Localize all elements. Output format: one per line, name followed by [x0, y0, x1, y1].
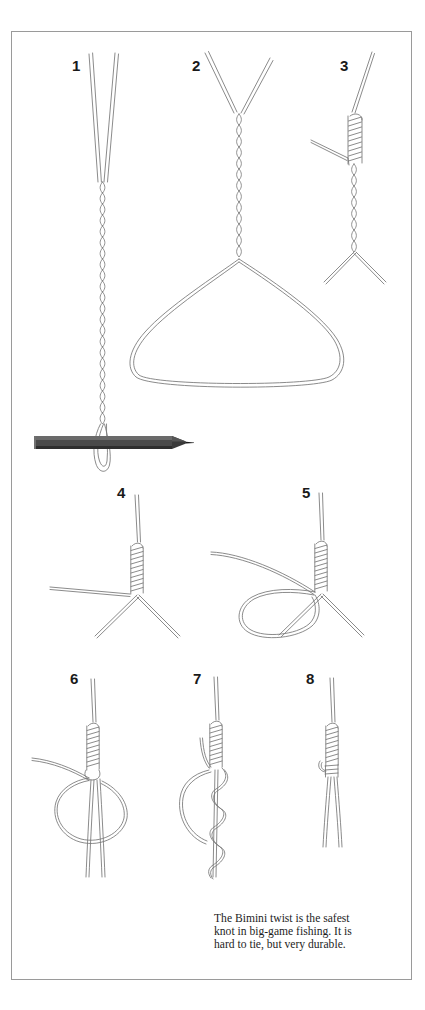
step-number-1: 1 [72, 58, 80, 73]
step-number-7: 7 [193, 671, 201, 686]
illustration-frame: 1 2 3 4 5 6 7 8 The Bimini twist is the … [11, 31, 412, 980]
step-number-8: 8 [306, 671, 314, 686]
knot-line-art [12, 32, 413, 981]
step-number-4: 4 [117, 485, 125, 500]
step-number-2: 2 [192, 58, 200, 73]
step-number-6: 6 [70, 671, 78, 686]
caption-line-2: knot in big-game fishing. It is [214, 925, 394, 938]
step-5-drawing [211, 493, 364, 638]
caption-line-3: hard to tie, but very durable. [214, 938, 394, 951]
step-7-drawing [180, 677, 228, 879]
pencil-dowel-icon [34, 436, 194, 449]
step-8-drawing [319, 678, 342, 847]
step-number-3: 3 [340, 58, 348, 73]
step-number-5: 5 [302, 485, 310, 500]
step-4-drawing [50, 495, 180, 638]
page-canvas: 1 2 3 4 5 6 7 8 The Bimini twist is the … [0, 0, 425, 1010]
figure-caption: The Bimini twist is the safest knot in b… [214, 912, 394, 952]
step-3-drawing [311, 52, 386, 284]
step-1-drawing [89, 53, 119, 471]
step-6-drawing [32, 679, 127, 877]
knot-diagram-artboard [12, 32, 413, 981]
caption-line-1: The Bimini twist is the safest [214, 912, 394, 925]
step-2-drawing [130, 52, 344, 388]
